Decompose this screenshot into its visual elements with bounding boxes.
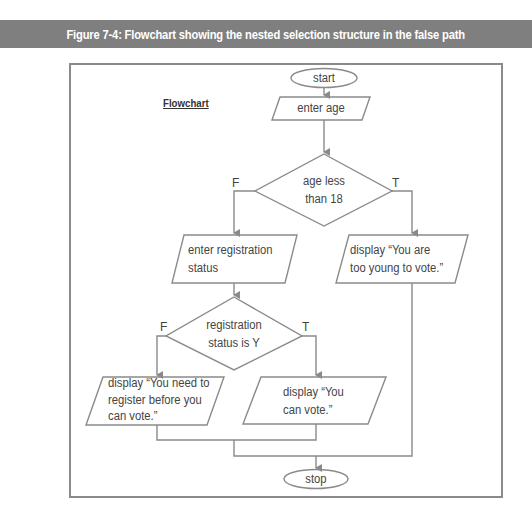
can-vote-text: display “You can vote.” [283, 383, 344, 419]
start-text: start [306, 69, 342, 87]
enter-registration-line1: enter registration [188, 241, 272, 259]
too-young-line1: display “You are [350, 241, 443, 259]
too-young-text: display “You are too young to vote.” [350, 241, 443, 277]
reg-true-label: T [302, 320, 309, 334]
age-true-label: T [392, 176, 399, 190]
need-register-line2: register before you [108, 392, 210, 409]
enter-registration-text: enter registration status [188, 241, 272, 277]
age-decision-text: age less than 18 [288, 172, 360, 208]
enter-registration-line2: status [188, 259, 272, 277]
age-false-label: F [232, 176, 239, 190]
registration-decision-text: registration status is Y [198, 316, 270, 352]
need-register-line3: can vote.” [108, 408, 210, 425]
flowchart-heading: Flowchart [163, 97, 209, 109]
enter-age-text: enter age [285, 99, 357, 117]
registration-decision-line1: registration [198, 316, 270, 334]
registration-decision-line2: status is Y [198, 334, 270, 352]
age-decision-line1: age less [288, 172, 360, 190]
can-vote-line2: can vote.” [283, 401, 344, 419]
too-young-line2: too young to vote.” [350, 259, 443, 277]
reg-false-label: F [160, 320, 167, 334]
can-vote-line1: display “You [283, 383, 344, 401]
stop-text: stop [298, 470, 334, 488]
need-register-line1: display “You need to [108, 375, 210, 392]
age-decision-line2: than 18 [288, 190, 360, 208]
need-register-text: display “You need to register before you… [108, 375, 210, 425]
